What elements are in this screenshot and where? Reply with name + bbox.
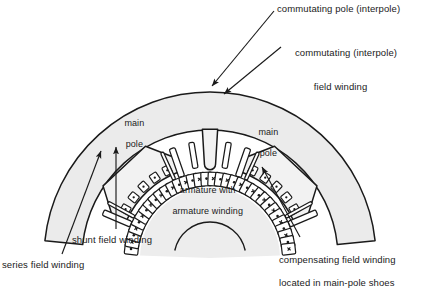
main-pole-right-compensating-conductor [285,196,287,198]
callout-compensating-field-winding: compensating field winding located in ma… [268,243,396,292]
callout-series-field-winding: series field winding [2,259,84,270]
label-main-pole-right-line2: pole [260,148,277,158]
label-main-pole-left-line1: main [124,118,144,128]
label-main-pole-right: main pole [248,117,278,169]
label-main-pole-left-line2: pole [126,139,143,149]
label-armature: armature with armature winding [162,175,243,227]
main-pole-right-compensating-conductor [264,177,266,179]
callout-commutating-field-winding-line1: commutating (interpole) [295,47,397,58]
callout-commutating-field-winding-line2: field winding [284,81,397,92]
callout-compensating-field-winding-line2: located in main-pole shoes [279,277,395,288]
main-pole-right-compensating-conductor [275,186,277,188]
callout-commutating-pole: commutating pole (interpole) [277,3,400,14]
leader-commutating-field-winding [224,47,281,94]
callout-commutating-field-winding: commutating (interpole) field winding [284,36,397,114]
interpole-top-commutating-field-winding [189,142,198,169]
main-pole-left-compensating-conductor [142,186,144,188]
interpole-top-core [202,129,217,170]
interpole-top [189,129,232,170]
interpole-top-commutating-field-winding [222,142,231,169]
label-main-pole-right-line1: main [258,127,278,137]
main-pole-left-compensating-conductor [154,177,156,179]
label-main-pole-left: main pole [114,108,144,160]
callout-compensating-field-winding-line1: compensating field winding [279,254,396,265]
main-pole-left-compensating-conductor [133,196,135,198]
callout-shunt-field-winding: shunt field winding [72,234,152,245]
leader-commutating-pole [212,11,274,86]
label-armature-line2: armature winding [172,206,243,216]
label-armature-line1: armature with [180,185,236,195]
